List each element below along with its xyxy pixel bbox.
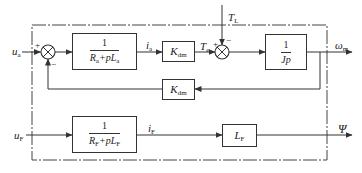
armature-numerator: 1 [102,38,107,50]
torque-constant-block: Kdm [162,41,195,62]
armature-block: 1 Ra+pLa [72,33,137,70]
field-inductance-block: LF [222,124,257,147]
back-emf-block: Kdm [162,79,195,100]
te-label: Te [200,41,209,54]
sum2-plus-sign: + [213,40,218,49]
summing-junction-1 [41,45,55,59]
psi-label: Ψ [338,123,346,135]
sum1-plus-sign: + [35,41,40,50]
sum1-minus-sign: − [51,60,56,69]
armature-denominator: Ra+pLa [90,50,120,65]
ua-label: ua [12,46,21,59]
mechanical-block: 1 Jp [265,34,307,70]
if-label: iF [148,123,155,136]
field-numerator: 1 [102,121,107,133]
ia-label: ia [146,40,152,53]
uf-label: uF [14,130,23,143]
mechanical-numerator: 1 [284,40,289,52]
mechanical-denominator: Jp [281,52,290,65]
tl-label: TL [228,12,238,25]
sum2-minus-sign: − [226,36,231,45]
field-denominator: RF+pLF [89,133,120,148]
omega-label: ωm [335,40,348,53]
field-block: 1 RF+pLF [72,116,137,153]
